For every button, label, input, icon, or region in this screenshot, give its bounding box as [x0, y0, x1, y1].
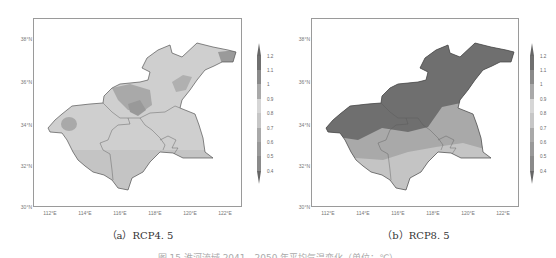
- subfigure-label-a: （a）RCP4. 5: [60, 227, 220, 242]
- colorbar-labels-rcp85: 1.2 1.1 1 0.9 0.8 0.7 0.6 0.5 0.4: [531, 42, 551, 187]
- map-rcp45: [0, 0, 278, 258]
- colorbar-labels-rcp45: 1.2 1.1 1 0.9 0.8 0.7 0.6 0.5 0.4: [258, 42, 278, 187]
- panel-rcp85: 38°N 36°N 34°N 32°N 30°N 112°E 114°E 116…: [278, 0, 556, 258]
- subfigure-label-b: （b）RCP8. 5: [336, 227, 496, 242]
- figure-caption: 图 15 淮河流域 2041—2050 年平均气温变化（单位：℃）: [0, 251, 556, 258]
- map-rcp85: [278, 0, 556, 258]
- panel-rcp45: 38°N 36°N 34°N 32°N 30°N 112°E 114°E 116…: [0, 0, 278, 258]
